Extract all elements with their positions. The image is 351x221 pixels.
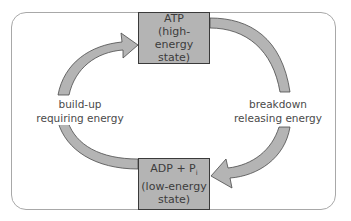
adp-title: ADP + Pi	[139, 162, 209, 180]
buildup-label-line1: build-up	[30, 97, 130, 111]
adp-node: ADP + Pi (low-energy state)	[138, 158, 210, 210]
atp-node: ATP (high-energy state)	[138, 12, 210, 64]
breakdown-label-line1: breakdown	[222, 97, 334, 111]
atp-desc-2: state)	[139, 51, 209, 64]
buildup-label-line2: requiring energy	[30, 111, 130, 125]
breakdown-label: breakdown releasing energy	[222, 97, 334, 125]
atp-title: ATP	[139, 12, 209, 25]
atp-desc-1: (high-energy	[139, 25, 209, 51]
adp-desc-1: (low-energy	[139, 180, 209, 193]
breakdown-label-line2: releasing energy	[222, 111, 334, 125]
adp-desc-2: state)	[139, 193, 209, 206]
buildup-label: build-up requiring energy	[30, 97, 130, 125]
